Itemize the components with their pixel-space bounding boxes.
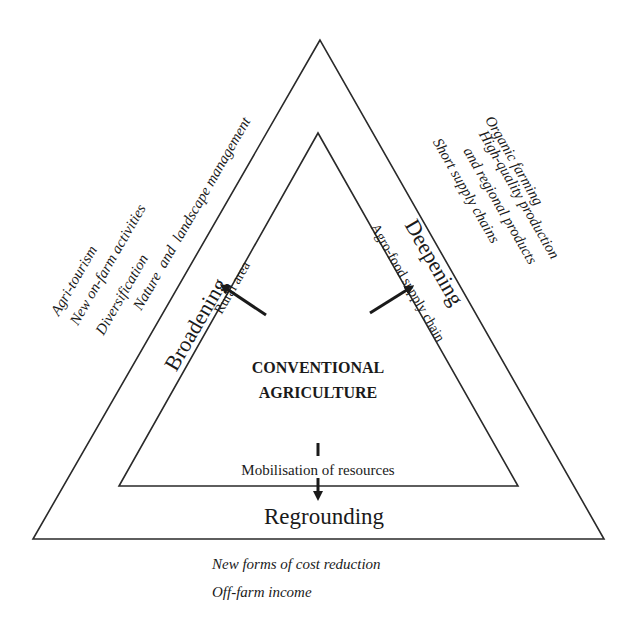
deepening-arrow xyxy=(370,288,410,313)
activity-cost-reduction: New forms of cost reduction xyxy=(211,556,381,572)
triangle-diagram: CONVENTIONAL AGRICULTURE Broadening Rura… xyxy=(0,0,639,624)
center-label-line2: AGRICULTURE xyxy=(259,384,378,401)
mobilisation-label: Mobilisation of resources xyxy=(241,462,394,478)
regrounding-label: Regrounding xyxy=(264,504,385,529)
center-label-line1: CONVENTIONAL xyxy=(252,359,384,376)
activity-off-farm-income: Off-farm income xyxy=(212,584,312,600)
broadening-label: Broadening xyxy=(159,274,232,375)
